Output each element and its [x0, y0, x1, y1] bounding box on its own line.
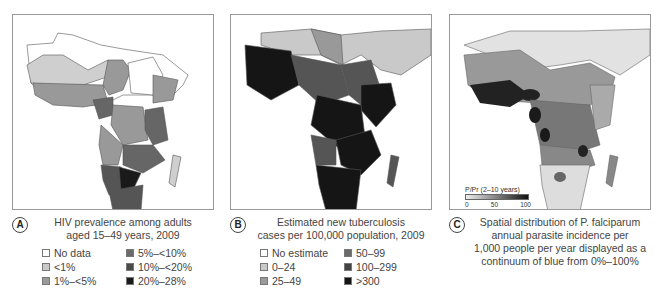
legend-b: No estimate 50–99 0–24 100–299 25–49 >30…: [260, 246, 440, 287]
panel-label-b: B: [230, 217, 246, 233]
africa-hiv-map: [13, 15, 214, 210]
caption-b: Estimated new tuberculosis cases per 100…: [248, 216, 434, 242]
color-scale: P/Pr (2–10 years) 0 50 100: [465, 186, 535, 208]
map-frame-a: [12, 14, 214, 210]
panel-label-a: A: [12, 217, 28, 233]
legend-item: <1%: [42, 260, 126, 273]
panel-b-tb-map: B Estimated new tuberculosis cases per 1…: [230, 0, 440, 294]
panel-c-malaria-map: P/Pr (2–10 years) 0 50 100 C Spatial dis…: [449, 0, 658, 294]
legend-item: 50–99: [344, 246, 440, 259]
legend-item: >300: [344, 274, 440, 287]
legend-item: No data: [42, 246, 126, 259]
map-frame-c: P/Pr (2–10 years) 0 50 100: [449, 14, 651, 210]
legend-item: 10%–<20%: [126, 260, 222, 273]
africa-tb-map: [231, 15, 432, 210]
legend-item: 1%–<5%: [42, 274, 126, 287]
legend-item: 5%–<10%: [126, 246, 222, 259]
legend-item: 100–299: [344, 260, 440, 273]
panel-a-hiv-map: A HIV prevalence among adults aged 15–49…: [12, 0, 222, 294]
legend-a: No data 5%–<10% <1% 10%–<20% 1%–<5% 20%–…: [42, 246, 222, 287]
legend-item: 20%–28%: [126, 274, 222, 287]
caption-a: HIV prevalence among adults aged 15–49 y…: [30, 216, 216, 242]
legend-item: 0–24: [260, 260, 344, 273]
africa-malaria-map: [450, 15, 651, 210]
caption-c: Spatial distribution of P. falciparum an…: [467, 216, 653, 268]
gradient-bar: [465, 194, 529, 200]
panel-label-c: C: [449, 217, 465, 233]
legend-item: No estimate: [260, 246, 344, 259]
legend-item: 25–49: [260, 274, 344, 287]
map-frame-b: [230, 14, 432, 210]
